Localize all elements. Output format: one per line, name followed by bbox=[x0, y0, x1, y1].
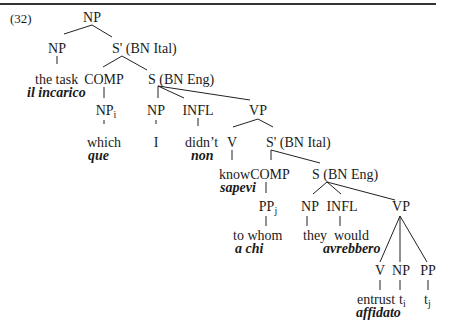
node-np-root: NP bbox=[83, 11, 101, 25]
tree-branches bbox=[0, 0, 449, 332]
node-v: V bbox=[227, 136, 237, 150]
node-vp: VP bbox=[392, 200, 410, 214]
word-non: non bbox=[191, 149, 214, 163]
word-il-incarico: il incarico bbox=[27, 86, 86, 100]
node-s-bn-eng: S (BN Eng) bbox=[312, 168, 378, 182]
node-np-i: NPi bbox=[96, 104, 117, 118]
node-sbar-bn-ital: S' (BN Ital) bbox=[266, 136, 331, 150]
example-number: (32) bbox=[10, 12, 32, 26]
word-avrebbero: avrebbero bbox=[323, 242, 381, 256]
node-infl: INFL bbox=[182, 104, 213, 118]
word-que: que bbox=[88, 149, 109, 163]
node-comp: COMP bbox=[250, 168, 290, 182]
node-np: NP bbox=[301, 200, 319, 214]
node-v: V bbox=[375, 264, 385, 278]
trace-j: tj bbox=[424, 293, 431, 307]
node-vp: VP bbox=[249, 104, 267, 118]
node-pp-j: PPj bbox=[259, 200, 277, 214]
node-sbar-bn-ital: S' (BN Ital) bbox=[112, 42, 177, 56]
node-pp: PP bbox=[420, 264, 436, 278]
word-sapevi: sapevi bbox=[220, 181, 256, 195]
node-comp: COMP bbox=[84, 73, 124, 87]
node-np: NP bbox=[48, 42, 66, 56]
node-np: NP bbox=[392, 264, 410, 278]
word-a-chi: a chi bbox=[235, 242, 263, 256]
node-np: NP bbox=[147, 104, 165, 118]
word-affidato: affidato bbox=[356, 306, 401, 320]
node-s-bn-eng: S (BN Eng) bbox=[148, 73, 214, 87]
node-infl: INFL bbox=[326, 200, 357, 214]
word-I: I bbox=[154, 136, 159, 150]
